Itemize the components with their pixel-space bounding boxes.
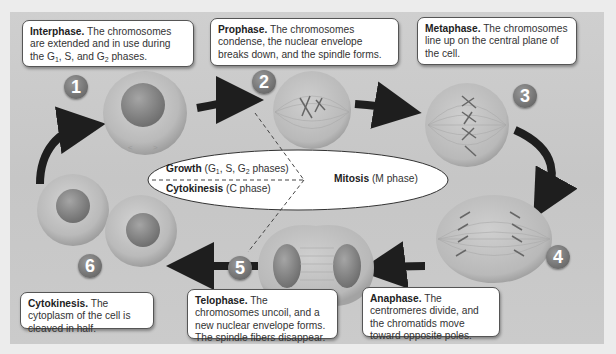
callout-anaphase: Anaphase. The centromeres divide, and th… bbox=[362, 287, 500, 337]
callout-title: Telophase. bbox=[195, 295, 247, 306]
callout-metaphase: Metaphase. The chromosomes line up on th… bbox=[417, 17, 577, 65]
cell-metaphase bbox=[425, 83, 509, 167]
svg-text:<: < bbox=[128, 143, 133, 152]
step-badge-3: 3 bbox=[513, 84, 537, 108]
growth-label: Growth (G1, S, G2 phases) bbox=[166, 163, 289, 174]
callout-interphase: Interphase. The chromosomes are extended… bbox=[22, 20, 194, 67]
arrow-2-to-3 bbox=[355, 104, 398, 109]
callout-title: Cytokinesis. bbox=[28, 298, 88, 309]
svg-text:>: > bbox=[153, 143, 158, 152]
cell-anaphase bbox=[436, 195, 552, 283]
callout-title: Interphase. bbox=[30, 26, 84, 37]
step-badge-1: 1 bbox=[64, 75, 88, 99]
callout-prophase: Prophase. The chromosomes condense, the … bbox=[210, 18, 399, 66]
arrow-4-to-5 bbox=[382, 266, 425, 268]
cell-prophase bbox=[273, 71, 351, 149]
step-badge-5: 5 bbox=[228, 256, 252, 280]
callout-cytokinesis: Cytokinesis. The cytoplasm of the cell i… bbox=[20, 292, 154, 329]
step-badge-2: 2 bbox=[252, 70, 276, 94]
step-badge-6: 6 bbox=[78, 254, 102, 278]
arrow-1-to-2 bbox=[197, 100, 240, 108]
callout-title: Metaphase. bbox=[425, 23, 480, 34]
callout-title: Anaphase. bbox=[370, 293, 422, 304]
mitosis-label: Mitosis (M phase) bbox=[334, 173, 418, 184]
callout-title: Prophase. bbox=[218, 24, 267, 35]
callout-telophase: Telophase. The chromosomes uncoil, and a… bbox=[187, 289, 338, 339]
step-badge-4: 4 bbox=[546, 245, 570, 269]
arrow-3-to-4 bbox=[515, 130, 552, 198]
cytokinesis-phase-label: Cytokinesis (C phase) bbox=[166, 183, 271, 194]
cell-interphase: < > bbox=[103, 71, 187, 155]
